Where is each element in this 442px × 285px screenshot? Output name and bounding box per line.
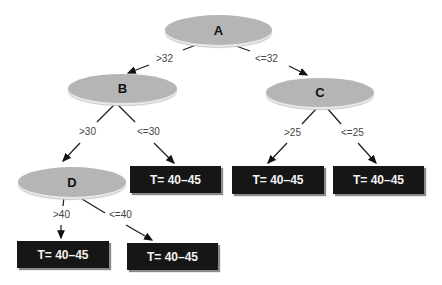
leaf-d-le40: T= 40–45 xyxy=(127,243,218,270)
node-d: D xyxy=(18,167,126,197)
leaf-label: T= 40–45 xyxy=(147,250,198,264)
node-d-label: D xyxy=(67,175,76,190)
edge-label-d-le: <=40 xyxy=(109,209,132,220)
leaf-label: T= 40–45 xyxy=(150,173,201,187)
edge-label-c-le: <=25 xyxy=(341,127,364,138)
node-a-label: A xyxy=(214,23,223,38)
node-a: A xyxy=(165,15,272,45)
leaf-label: T= 40–45 xyxy=(37,248,88,262)
leaf-label: T= 40–45 xyxy=(353,173,404,187)
edge-label-a-gt: >32 xyxy=(156,53,173,64)
leaf-c-le25: T= 40–45 xyxy=(333,166,424,194)
edge-label-b-le: <=30 xyxy=(137,126,160,137)
node-b: B xyxy=(68,74,177,103)
edge-label-b-gt: >30 xyxy=(79,126,96,137)
node-b-label: B xyxy=(118,81,127,96)
node-c-label: C xyxy=(315,85,324,100)
edge-label-d-gt: >40 xyxy=(53,209,70,220)
leaf-b-le30: T= 40–45 xyxy=(130,166,221,193)
leaf-c-gt25: T= 40–45 xyxy=(232,166,324,194)
node-c: C xyxy=(266,78,374,107)
edge-label-a-le: <=32 xyxy=(255,53,278,64)
leaf-label: T= 40–45 xyxy=(252,173,303,187)
leaf-d-gt40: T= 40–45 xyxy=(17,241,109,268)
edge-label-c-gt: >25 xyxy=(284,127,301,138)
